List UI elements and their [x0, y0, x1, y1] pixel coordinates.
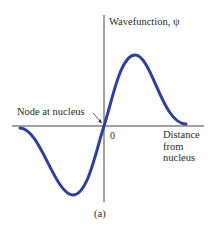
y-axis-label: Wavefunction, ψ	[109, 16, 179, 27]
wavefunction-plot	[0, 0, 222, 236]
figure-caption: (a)	[94, 208, 106, 219]
node-annotation: Node at nucleus	[17, 106, 85, 117]
x-axis-label: Distance from nucleus	[163, 129, 200, 164]
x-axis-label-line: from	[163, 141, 200, 153]
x-axis-label-line: nucleus	[163, 152, 200, 164]
wavefunction-curve	[20, 55, 186, 195]
x-axis-label-line: Distance	[163, 129, 200, 141]
origin-label: 0	[110, 130, 115, 141]
